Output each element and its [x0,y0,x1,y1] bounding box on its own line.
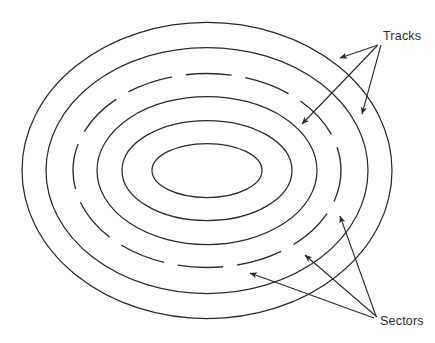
sectors-leader-3 [250,273,374,318]
tracks-label: Tracks [383,29,421,43]
track-ring-2 [46,48,368,294]
track-ring-inner [152,144,262,198]
tracks-leader-3 [302,46,377,124]
track-ring-4 [97,97,317,245]
sectors-leader-2 [305,255,377,317]
tracks-leader-group [302,45,381,124]
sectors-label: Sectors [380,314,424,328]
figure-container: Tracks Sectors [0,0,435,343]
sector-divider-ring-dashed [73,74,341,268]
track-ring-outer [22,23,392,319]
track-rings-group [22,23,392,319]
disk-diagram-svg: Tracks Sectors [0,0,435,343]
track-ring-5 [122,121,292,221]
